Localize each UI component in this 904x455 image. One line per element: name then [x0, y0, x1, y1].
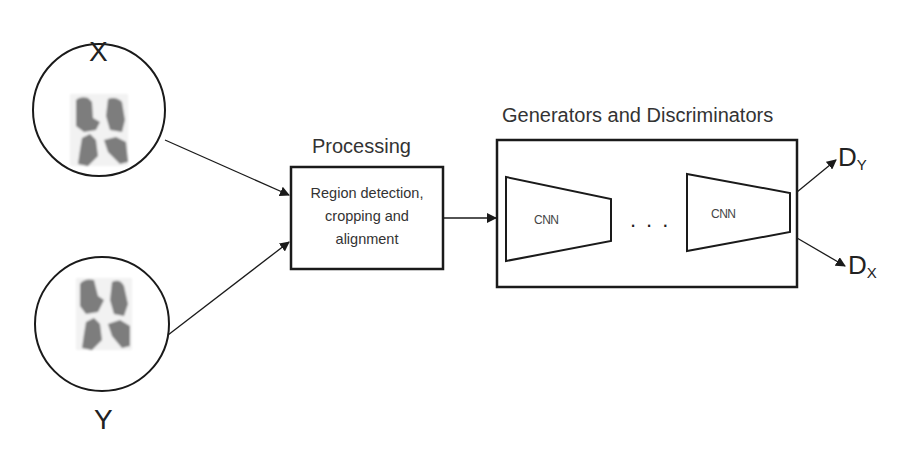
input-circle-y: [35, 257, 169, 391]
input-label-y: Y: [94, 406, 113, 434]
input-label-x: X: [89, 38, 108, 66]
output-dy: DY: [838, 144, 867, 172]
processing-description: Region detection, cropping and alignment: [291, 182, 443, 251]
processing-line-1: Region detection,: [291, 182, 443, 205]
edge-gan-to-dy: [797, 160, 836, 192]
gan-title: Generators and Discriminators: [502, 105, 773, 125]
output-dy-sub: Y: [857, 156, 867, 173]
output-dy-main: D: [838, 142, 857, 172]
lung-image-y: [76, 278, 132, 350]
processing-line-3: alignment: [291, 228, 443, 251]
cnn-label-2: CNN: [711, 207, 736, 221]
lung-image-x: [70, 94, 128, 166]
ellipsis: ...: [630, 209, 678, 231]
output-dx: DX: [848, 252, 877, 280]
processing-title: Processing: [312, 136, 411, 156]
cnn-label-1: CNN: [534, 213, 559, 227]
edge-gan-to-dx: [797, 238, 845, 266]
output-dx-main: D: [848, 250, 867, 280]
output-dx-sub: X: [867, 264, 877, 281]
diagram-canvas: [0, 0, 904, 455]
processing-line-2: cropping and: [291, 205, 443, 228]
ellipsis-text: ...: [630, 207, 678, 232]
edge-y-to-processing: [168, 242, 289, 335]
edge-x-to-processing: [165, 140, 289, 195]
